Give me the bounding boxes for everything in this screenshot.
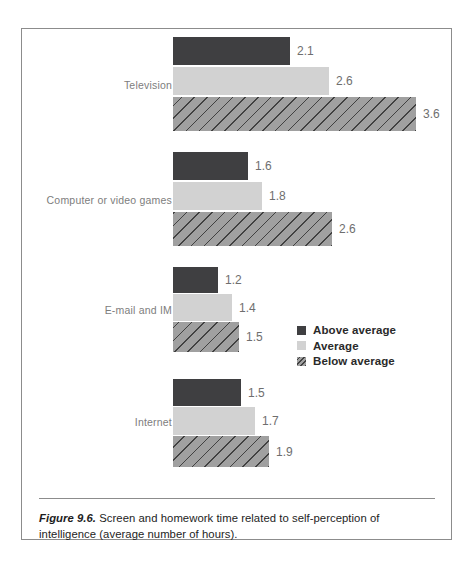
bar-value-label: 1.8 <box>269 189 286 203</box>
bar-above-average <box>173 379 241 406</box>
category-label-computer-or-video-games: Computer or video games <box>47 194 172 206</box>
bar-below-average <box>173 436 269 467</box>
average-swatch-icon <box>297 341 306 350</box>
bar-average <box>173 294 232 321</box>
bar-above-average <box>173 37 290 65</box>
figure-number: Figure 9.6. <box>39 512 96 524</box>
bar-value-label: 1.2 <box>225 273 242 287</box>
caption-divider <box>39 498 435 499</box>
bar-average <box>173 182 262 210</box>
legend-label: Above average <box>313 324 396 336</box>
bar-value-label: 2.6 <box>339 222 356 236</box>
bar-above-average <box>173 152 248 180</box>
legend-item-below-average: Below average <box>297 354 437 369</box>
bar-value-label: 1.4 <box>239 301 256 315</box>
bar-value-label: 1.9 <box>276 445 293 459</box>
legend-label: Below average <box>313 355 395 367</box>
bar-average <box>173 407 255 435</box>
bar-chart: Television 2.1 2.6 3.6 Computer or video… <box>22 29 451 498</box>
bar-value-label: 1.5 <box>248 386 265 400</box>
below-average-swatch-icon <box>297 357 306 366</box>
bar-value-label: 2.6 <box>336 74 353 88</box>
bar-group-computer-or-video-games: Computer or video games 1.6 1.8 2.6 <box>22 152 451 252</box>
bar-value-label: 2.1 <box>297 44 314 58</box>
bar-below-average <box>173 97 416 131</box>
bar-group-internet: Internet 1.5 1.7 1.9 <box>22 379 451 473</box>
chart-legend: Above average Average Below average <box>297 323 437 370</box>
bar-group-television: Television 2.1 2.6 3.6 <box>22 37 451 137</box>
bar-above-average <box>173 267 218 293</box>
bar-value-label: 1.7 <box>262 414 279 428</box>
category-label-internet: Internet <box>135 416 172 428</box>
bar-value-label: 3.6 <box>423 107 440 121</box>
legend-item-above-average: Above average <box>297 323 437 338</box>
category-label-email-and-im: E-mail and IM <box>105 304 172 316</box>
bar-value-label: 1.5 <box>246 330 263 344</box>
figure-frame: Television 2.1 2.6 3.6 Computer or video… <box>21 28 452 540</box>
figure-caption: Figure 9.6. Screen and homework time rel… <box>39 510 439 542</box>
bar-below-average <box>173 322 239 352</box>
bar-value-label: 1.6 <box>255 159 272 173</box>
bar-average <box>173 67 329 95</box>
legend-label: Average <box>313 340 359 352</box>
bar-below-average <box>173 212 332 246</box>
category-label-television: Television <box>124 79 172 91</box>
legend-item-average: Average <box>297 339 437 354</box>
above-average-swatch-icon <box>297 326 306 335</box>
